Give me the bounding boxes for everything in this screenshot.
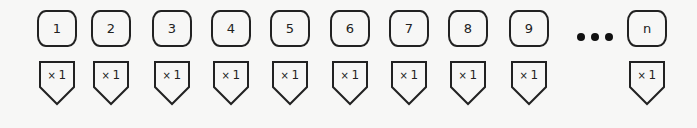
sequence-item-3: 3 ×1 [152,0,192,128]
multiplier-tag: ×1 [391,61,427,106]
box-label: 4 [227,21,235,36]
sequence-item-5: 5 ×1 [270,0,310,128]
box-label: 5 [286,21,294,36]
box-label: 3 [168,21,176,36]
multiplier-tag: ×1 [154,61,190,106]
sequence-item-n: n ×1 [627,0,667,128]
sequence-item-4: 4 ×1 [211,0,251,128]
box-label: 7 [405,21,413,36]
multiplier-label: ×1 [511,68,547,82]
box-label: 9 [525,21,533,36]
box-label: n [643,21,651,36]
sequence-item-9: 9 ×1 [509,0,549,128]
multiplier-label: ×1 [272,68,308,82]
multiplier-tag: ×1 [93,61,129,106]
multiplier-tag: ×1 [39,61,75,106]
number-box: 2 [91,10,131,47]
number-box: 9 [509,10,549,47]
number-box: 3 [152,10,192,47]
box-label: 2 [107,21,115,36]
number-box: 5 [270,10,310,47]
sequence-item-7: 7 ×1 [389,0,429,128]
multiplier-tag: ×1 [450,61,486,106]
multiplier-tag: ×1 [629,61,665,106]
multiplier-tag: ×1 [213,61,249,106]
dot [605,33,613,41]
number-box: 4 [211,10,251,47]
multiplier-label: ×1 [93,68,129,82]
number-box: n [627,10,667,47]
number-box: 7 [389,10,429,47]
sequence-item-1: 1 ×1 [37,0,77,128]
multiplier-tag: ×1 [332,61,368,106]
box-label: 6 [346,21,354,36]
sequence-item-8: 8 ×1 [448,0,488,128]
number-box: 8 [448,10,488,47]
multiplier-label: ×1 [629,68,665,82]
dot [577,33,585,41]
multiplier-label: ×1 [39,68,75,82]
number-box: 1 [37,10,77,47]
sequence-item-2: 2 ×1 [91,0,131,128]
multiplier-label: ×1 [332,68,368,82]
multiplier-tag: ×1 [511,61,547,106]
multiplier-label: ×1 [213,68,249,82]
multiplier-tag: ×1 [272,61,308,106]
sequence-item-6: 6 ×1 [330,0,370,128]
multiplier-label: ×1 [450,68,486,82]
dot [591,33,599,41]
multiplier-label: ×1 [391,68,427,82]
box-label: 1 [53,21,61,36]
multiplier-label: ×1 [154,68,190,82]
box-label: 8 [464,21,472,36]
number-box: 6 [330,10,370,47]
ellipsis-dots-icon [574,33,616,41]
